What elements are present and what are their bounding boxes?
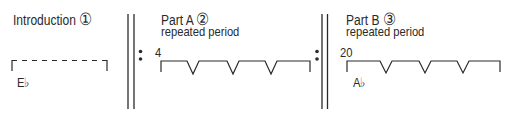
part-a-bracket <box>161 61 310 74</box>
introduction-key: E♭ <box>17 76 30 89</box>
section-marker-icon: ① <box>79 10 92 29</box>
part-b-measure-number: 20 <box>340 46 352 59</box>
repeat-dots-begin <box>139 50 143 61</box>
part-b-subtitle: repeated period <box>346 25 424 38</box>
introduction-heading: Introduction ① <box>13 11 92 28</box>
double-barline-right <box>322 14 328 109</box>
part-b-bracket <box>347 61 500 73</box>
form-diagram: Introduction ① E♭ Part A ② repeated peri… <box>0 0 512 115</box>
introduction-bracket <box>12 60 107 71</box>
part-a-measure-number: 4 <box>155 46 161 59</box>
repeat-dots-end <box>315 50 319 61</box>
part-a-subtitle: repeated period <box>161 25 239 38</box>
section-title: Introduction <box>13 12 76 28</box>
double-barline-left <box>128 14 134 109</box>
part-b-key: A♭ <box>353 76 366 89</box>
